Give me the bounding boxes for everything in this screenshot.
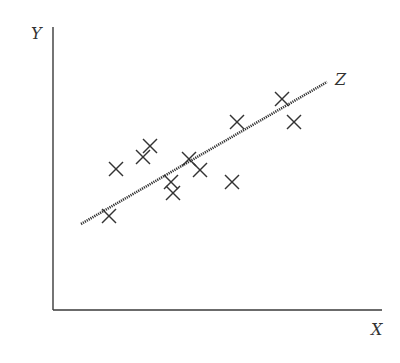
- scatter-diagram: Y X Z: [0, 0, 400, 363]
- y-axis-label: Y: [31, 26, 42, 42]
- plot-area: [0, 0, 400, 363]
- x-marker-icon: [287, 115, 301, 129]
- x-axis-label: X: [371, 322, 382, 338]
- line-z-label: Z: [335, 72, 346, 88]
- x-marker-icon: [225, 175, 239, 189]
- x-marker-icon: [230, 115, 244, 129]
- data-points: [102, 92, 301, 223]
- x-marker-icon: [109, 162, 123, 176]
- regression-line-z: [81, 82, 327, 224]
- x-marker-icon: [166, 186, 180, 200]
- x-marker-icon: [102, 209, 116, 223]
- x-marker-icon: [275, 92, 289, 106]
- fit-line: [81, 82, 327, 224]
- x-marker-icon: [193, 163, 207, 177]
